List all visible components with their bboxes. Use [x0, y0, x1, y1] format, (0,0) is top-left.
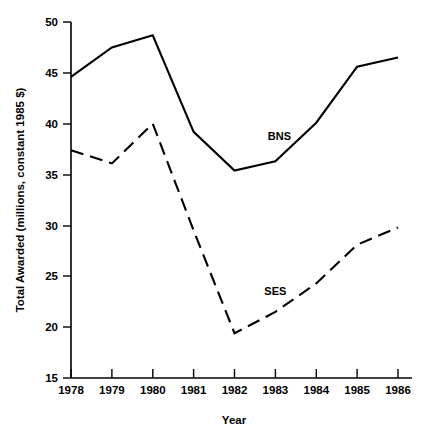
- series-annotation-ses: SES: [264, 285, 286, 297]
- y-axis-tick-labels: 50 45 40 35 30 25 20 15: [45, 16, 58, 384]
- x-tick-label: 1981: [181, 384, 207, 396]
- x-tick-label: 1980: [140, 384, 166, 396]
- x-axis-tick-labels: 1978 1979 1980 1981 1982 1983 1984 1985 …: [58, 384, 411, 396]
- line-chart-canvas: 50 45 40 35 30 25 20 15 1978 1979 1980: [0, 0, 442, 442]
- series-line-bns: [71, 35, 398, 170]
- series-annotation-bns: BNS: [268, 130, 291, 142]
- x-tick-label: 1984: [304, 384, 330, 396]
- y-tick-label: 30: [45, 220, 58, 232]
- y-tick-label: 50: [45, 16, 58, 28]
- y-tick-label: 15: [45, 372, 58, 384]
- y-axis-ticks: [63, 22, 71, 378]
- y-tick-label: 45: [45, 67, 58, 79]
- x-tick-label: 1982: [222, 384, 248, 396]
- x-tick-label: 1985: [344, 384, 370, 396]
- y-tick-label: 20: [45, 321, 58, 333]
- x-tick-label: 1983: [263, 384, 289, 396]
- x-tick-label: 1978: [58, 384, 84, 396]
- x-axis-ticks: [71, 369, 398, 378]
- series-line-ses: [71, 124, 398, 334]
- chart-figure: 50 45 40 35 30 25 20 15 1978 1979 1980: [0, 0, 442, 442]
- y-tick-label: 35: [45, 169, 58, 181]
- x-tick-label: 1979: [99, 384, 125, 396]
- x-axis-title: Year: [222, 414, 247, 426]
- x-tick-label: 1986: [385, 384, 411, 396]
- y-axis-title: Total Awarded (millions, constant 1985 $…: [14, 87, 26, 312]
- y-tick-label: 25: [45, 270, 58, 282]
- y-tick-label: 40: [45, 118, 58, 130]
